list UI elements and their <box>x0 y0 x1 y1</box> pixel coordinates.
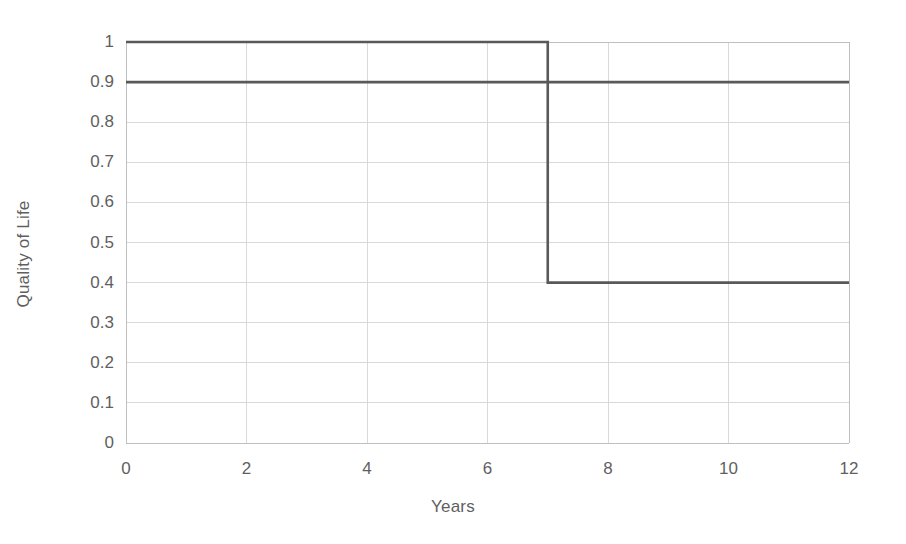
plot-area <box>0 0 906 544</box>
chart-container: Quality of Life Years 10.90.80.70.60.50.… <box>0 0 906 544</box>
